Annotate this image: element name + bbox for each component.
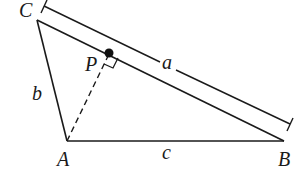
side-a-label: a (162, 51, 172, 73)
point-p-label: P (84, 53, 97, 75)
point-p-dot (105, 49, 114, 58)
side-c-label: c (162, 141, 171, 163)
dimension-tick-right (287, 118, 293, 131)
triangle-diagram: C A B P a b c (0, 0, 303, 179)
vertex-b-label: B (278, 148, 290, 170)
vertex-c-label: C (19, 0, 33, 21)
side-b-label: b (32, 82, 42, 104)
vertex-a-label: A (55, 148, 70, 170)
diagram-svg: C A B P a b c (0, 0, 303, 179)
side-a-line (37, 20, 284, 141)
side-b-line (37, 20, 67, 141)
dimension-line-a (44, 6, 160, 62)
